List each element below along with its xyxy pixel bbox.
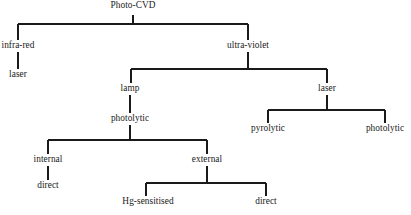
node-photo-cvd: Photo-CVD — [111, 0, 156, 10]
photo-cvd-tree-diagram: Photo-CVD infra-red ultra-violet laser l… — [0, 0, 411, 215]
node-laser-photolytic: photolytic — [366, 123, 404, 133]
node-lamp-photolytic: photolytic — [111, 113, 149, 123]
node-uv-lamp: lamp — [121, 83, 140, 93]
node-external: external — [192, 154, 222, 164]
node-internal: internal — [34, 154, 63, 164]
node-hg-sensitised: Hg-sensitised — [122, 196, 173, 206]
node-uv-laser: laser — [318, 83, 336, 93]
node-infra-red: infra-red — [2, 40, 35, 50]
node-internal-direct: direct — [37, 180, 58, 190]
tree-connector-lines — [0, 0, 411, 215]
node-laser-pyrolytic: pyrolytic — [251, 123, 285, 133]
node-infra-red-laser: laser — [9, 69, 27, 79]
node-external-direct: direct — [255, 196, 276, 206]
node-ultra-violet: ultra-violet — [227, 40, 269, 50]
